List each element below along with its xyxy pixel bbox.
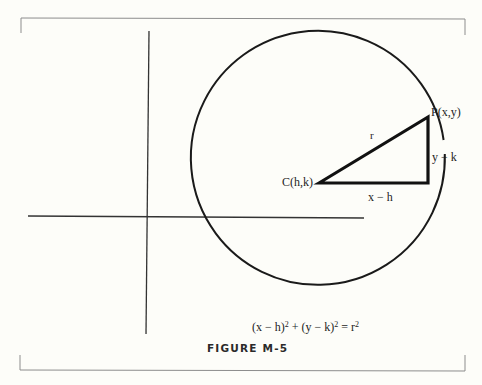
equation-part1: (x − h) [252, 320, 285, 334]
circle-equation: (x − h)2 + (y − k)2 = r2 [252, 321, 359, 333]
figure-caption: FIGURE M-5 [207, 343, 288, 354]
frame-bottom [20, 355, 465, 371]
point-p-label: P(x,y) [431, 106, 461, 118]
vertical-leg-label: y − k [432, 151, 457, 163]
horizontal-leg-label: x − h [368, 191, 393, 203]
equation-exp3: 2 [355, 320, 359, 329]
right-triangle [319, 117, 428, 183]
center-c-label: C(h,k) [282, 176, 313, 188]
frame-top [21, 18, 465, 35]
equation-part2: + (y − k) [289, 320, 335, 334]
y-axis [146, 31, 149, 334]
diagram-canvas [0, 0, 482, 385]
x-axis [28, 216, 364, 218]
circle [191, 31, 445, 285]
radius-label: r [370, 130, 374, 141]
equation-part3: = r [338, 320, 355, 334]
